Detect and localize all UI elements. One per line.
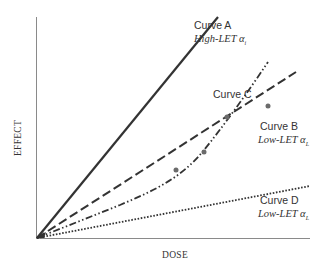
curve-b-label: Curve B (260, 120, 298, 132)
curve-d-sublabel: Low-LET αL (257, 208, 310, 221)
dose-effect-chart: Curve A High-LET αi Curve C Curve B Low-… (0, 0, 328, 270)
curve-b-sublabel: Low-LET αL (257, 134, 310, 147)
curve-d-label: Curve D (260, 194, 299, 206)
y-axis-label: EFFECT (13, 120, 23, 156)
x-axis-label: DOSE (162, 250, 188, 260)
data-point (225, 115, 230, 120)
data-point (174, 168, 179, 173)
curve-a-label: Curve A (194, 19, 231, 31)
curve-a-sublabel: High-LET αi (193, 33, 247, 46)
data-point (202, 150, 207, 155)
data-point (266, 104, 271, 109)
curve-c-label: Curve C (213, 88, 252, 100)
curve-a-line (37, 17, 218, 238)
